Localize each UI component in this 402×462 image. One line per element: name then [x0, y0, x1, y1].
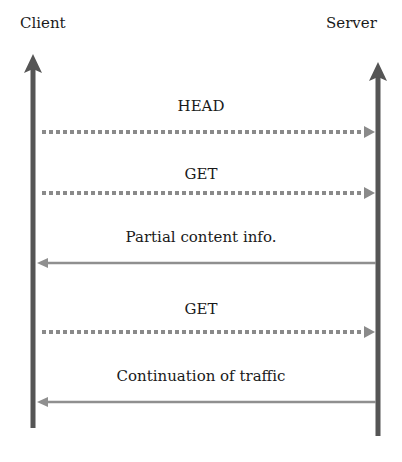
message-label-get-2: GET	[0, 300, 402, 318]
message-label-partial-content: Partial content info.	[0, 228, 402, 246]
message-arrow-get-2	[42, 326, 375, 338]
message-arrow-continuation	[37, 397, 376, 407]
message-arrow-partial-content	[37, 258, 376, 268]
message-label-get-1: GET	[0, 165, 402, 183]
message-arrow-get-1	[42, 187, 375, 199]
message-arrow-head	[42, 126, 375, 138]
message-label-continuation: Continuation of traffic	[0, 367, 402, 385]
message-label-head: HEAD	[0, 97, 402, 115]
